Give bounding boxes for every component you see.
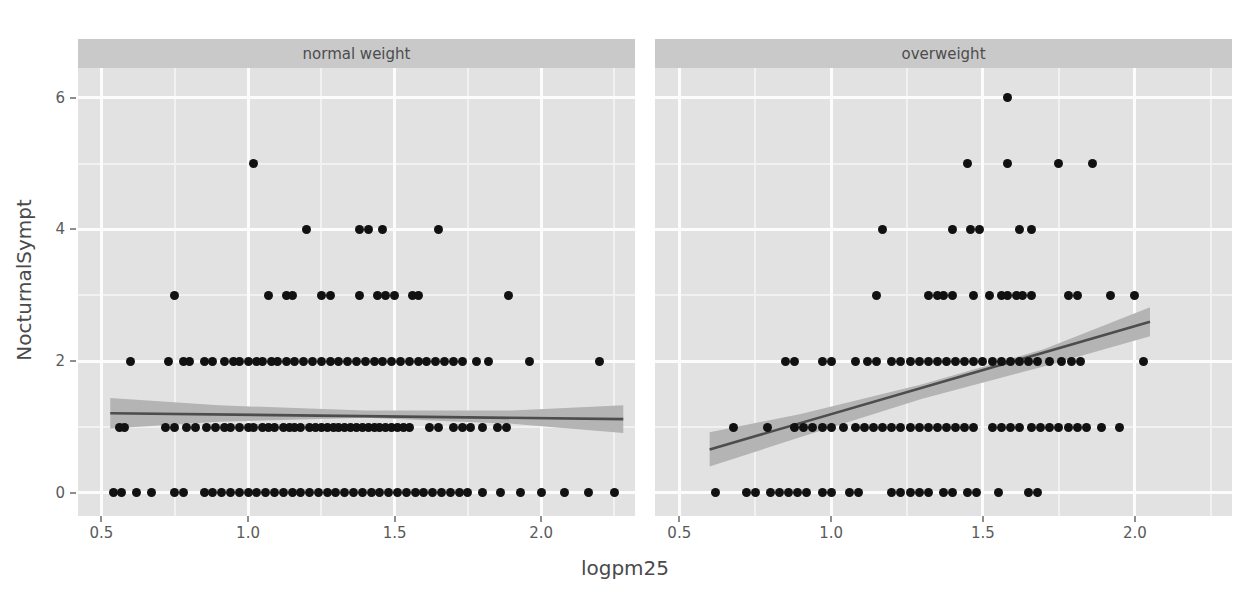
- data-point: [299, 357, 308, 366]
- data-point: [191, 423, 200, 432]
- data-point: [790, 423, 799, 432]
- data-point: [1018, 291, 1027, 300]
- data-point: [985, 291, 994, 300]
- data-point: [405, 423, 414, 432]
- data-point: [960, 423, 969, 432]
- data-point: [960, 357, 969, 366]
- data-point: [208, 357, 217, 366]
- data-point: [818, 488, 827, 497]
- data-point: [200, 488, 209, 497]
- data-point: [1054, 423, 1063, 432]
- data-point: [1024, 357, 1033, 366]
- data-point: [1027, 291, 1036, 300]
- facet-strip-normal-weight: normal weight: [78, 39, 635, 68]
- data-point: [1006, 357, 1015, 366]
- data-point: [170, 291, 179, 300]
- data-point: [120, 423, 129, 432]
- data-point: [425, 423, 434, 432]
- data-point: [434, 225, 443, 234]
- data-point: [282, 357, 291, 366]
- data-point: [449, 357, 458, 366]
- data-point: [939, 291, 948, 300]
- x-tick-label: 1.0: [801, 524, 861, 542]
- data-point: [258, 357, 267, 366]
- data-point: [1027, 225, 1036, 234]
- data-point: [988, 423, 997, 432]
- x-tick-mark: [100, 516, 102, 522]
- data-point: [906, 357, 915, 366]
- data-point: [839, 423, 848, 432]
- data-point: [790, 357, 799, 366]
- data-point: [493, 423, 502, 432]
- data-point: [525, 357, 534, 366]
- data-point: [818, 357, 827, 366]
- data-point: [352, 357, 361, 366]
- data-point: [1015, 423, 1024, 432]
- x-tick-label: 1.5: [365, 524, 425, 542]
- chart-figure: NocturnalSympt logpm25 0246 0.51.01.52.0…: [0, 0, 1250, 605]
- y-tick-mark: [70, 360, 76, 362]
- data-point: [478, 423, 487, 432]
- data-point: [226, 423, 235, 432]
- data-point: [355, 291, 364, 300]
- data-point: [355, 225, 364, 234]
- data-point: [288, 291, 297, 300]
- data-point: [942, 423, 951, 432]
- data-point: [308, 357, 317, 366]
- data-point: [924, 357, 933, 366]
- data-point: [948, 225, 957, 234]
- data-point: [997, 423, 1006, 432]
- data-point: [264, 291, 273, 300]
- data-point: [317, 291, 326, 300]
- data-point: [924, 291, 933, 300]
- x-tick-mark: [830, 516, 832, 522]
- data-point: [851, 357, 860, 366]
- data-point: [484, 357, 493, 366]
- data-point: [1067, 357, 1076, 366]
- data-point: [1036, 423, 1045, 432]
- data-point: [969, 423, 978, 432]
- data-point: [872, 291, 881, 300]
- x-tick-mark: [394, 516, 396, 522]
- data-point: [361, 357, 370, 366]
- x-tick-mark: [1134, 516, 1136, 522]
- data-point: [458, 357, 467, 366]
- facet-strip-label: normal weight: [303, 45, 411, 63]
- x-tick-mark: [247, 516, 249, 522]
- data-point: [235, 357, 244, 366]
- y-tick-label: 2: [25, 352, 65, 370]
- data-point: [326, 291, 335, 300]
- data-point: [851, 423, 860, 432]
- data-point: [863, 357, 872, 366]
- data-point: [942, 357, 951, 366]
- data-point: [860, 423, 869, 432]
- x-tick-label: 0.5: [71, 524, 131, 542]
- data-point: [948, 291, 957, 300]
- x-tick-label: 2.0: [511, 524, 571, 542]
- data-point: [249, 423, 258, 432]
- data-point: [878, 423, 887, 432]
- data-point: [763, 423, 772, 432]
- data-point: [1027, 423, 1036, 432]
- data-point: [343, 357, 352, 366]
- data-point: [235, 423, 244, 432]
- data-point: [1003, 93, 1012, 102]
- x-tick-label: 1.0: [218, 524, 278, 542]
- panel-normal-weight: [78, 68, 635, 516]
- data-point: [200, 357, 209, 366]
- y-tick-mark: [70, 97, 76, 99]
- data-point: [951, 423, 960, 432]
- data-point: [373, 291, 382, 300]
- data-point: [390, 291, 399, 300]
- data-point: [781, 357, 790, 366]
- panel-overweight: [655, 68, 1232, 516]
- data-point: [182, 423, 191, 432]
- x-tick-mark: [982, 516, 984, 522]
- x-tick-label: 2.0: [1105, 524, 1165, 542]
- facet-strip-label: overweight: [901, 45, 985, 63]
- data-point: [1003, 291, 1012, 300]
- y-tick-label: 6: [25, 89, 65, 107]
- x-tick-mark: [678, 516, 680, 522]
- data-point: [405, 357, 414, 366]
- data-point: [827, 357, 836, 366]
